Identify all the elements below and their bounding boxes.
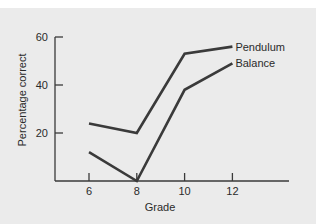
series-line-balance [89, 63, 232, 181]
y-tick-label: 40 [36, 79, 48, 91]
x-tick-label: 12 [226, 185, 238, 197]
line-chart: 204060681012 PendulumBalance Grade Perce… [0, 0, 316, 224]
y-tick-label: 60 [36, 31, 48, 43]
series-label-balance: Balance [235, 57, 275, 69]
axes: 204060681012 [36, 31, 289, 197]
x-tick-label: 6 [86, 185, 92, 197]
x-axis-title: Grade [145, 201, 176, 213]
series-line-pendulum [89, 47, 232, 133]
y-axis-title: Percentage correct [16, 54, 28, 147]
series-lines: PendulumBalance [89, 41, 285, 181]
series-label-pendulum: Pendulum [235, 41, 285, 53]
x-tick-label: 10 [178, 185, 190, 197]
y-tick-label: 20 [36, 127, 48, 139]
x-tick-label: 8 [134, 185, 140, 197]
